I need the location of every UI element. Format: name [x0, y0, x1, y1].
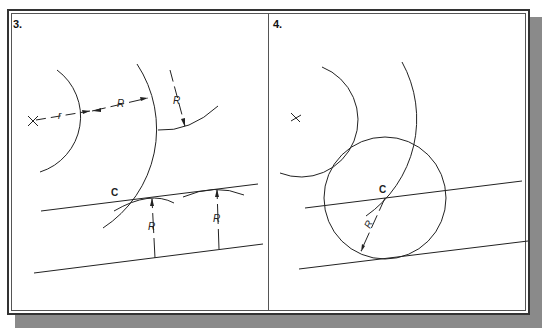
label-R-3: R — [148, 221, 155, 232]
arc-radius-r-plus-R — [366, 62, 417, 216]
panel-3-geometry — [28, 64, 263, 273]
panel-4-geometry — [280, 62, 528, 269]
label-R-4: R — [213, 213, 220, 224]
label-R-1: R — [117, 98, 124, 109]
line-upper — [305, 181, 522, 208]
arc-offset-R — [158, 106, 218, 130]
panel-3-labels: r R R R R — [58, 95, 220, 232]
arc-radius-r — [280, 67, 358, 177]
line-upper — [41, 184, 258, 211]
dimension-line-r — [36, 111, 90, 120]
line-lower — [34, 244, 263, 273]
point-c-label-3: C — [111, 187, 118, 198]
offset-arc-2 — [183, 189, 244, 197]
construction-drawing: r R R R R C R C — [0, 0, 546, 333]
arc-radius-r — [40, 70, 81, 172]
line-lower — [299, 241, 528, 269]
label-R: R — [362, 219, 375, 230]
offset-arc-1 — [114, 198, 174, 211]
point-c-label-4: C — [379, 184, 386, 195]
center-x-icon — [291, 113, 301, 122]
label-r: r — [58, 110, 62, 121]
center-x-icon — [28, 116, 38, 126]
label-R-2: R — [173, 95, 180, 106]
